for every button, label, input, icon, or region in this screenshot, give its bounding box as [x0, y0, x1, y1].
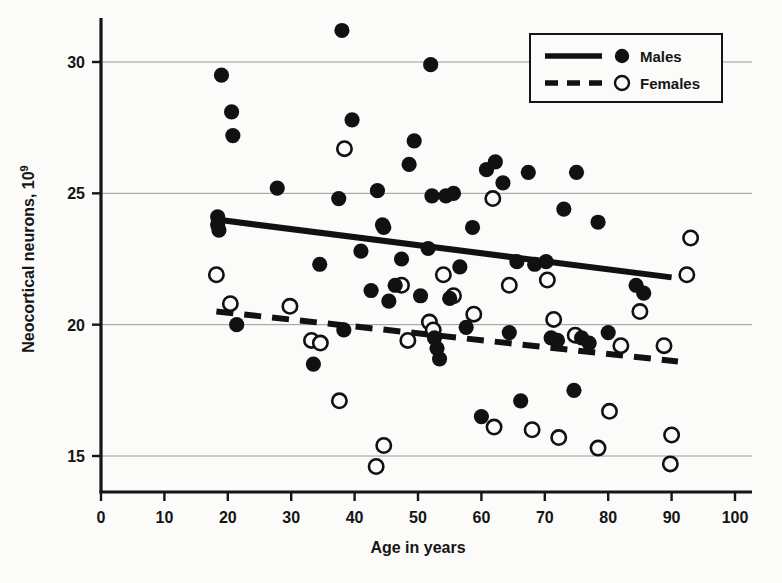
x-tick-label-80: 80 [599, 509, 617, 526]
x-tick-label-20: 20 [219, 509, 237, 526]
legend-label-males: Males [640, 48, 682, 65]
data-point-female [525, 423, 539, 437]
legend-marker-females [615, 76, 629, 90]
data-point-male [402, 157, 417, 172]
legend-label-females: Females [640, 75, 700, 92]
y-axis-title-superscript: 9 [18, 165, 30, 171]
data-point-male [495, 175, 510, 190]
data-point-male [306, 356, 321, 371]
data-point-male [225, 128, 240, 143]
data-point-male [224, 104, 239, 119]
data-point-female [680, 268, 694, 282]
data-point-female [633, 304, 647, 318]
data-point-female [377, 438, 391, 452]
data-point-female [683, 231, 697, 245]
data-point-male [331, 191, 346, 206]
data-point-female [602, 404, 616, 418]
data-point-male [421, 241, 436, 256]
data-point-male [407, 133, 422, 148]
x-tick-label-90: 90 [663, 509, 681, 526]
data-point-female [657, 338, 671, 352]
y-tick-label-30: 30 [67, 54, 85, 71]
data-point-male [474, 409, 489, 424]
data-point-female [540, 273, 554, 287]
data-point-male [344, 112, 359, 127]
data-point-male [432, 351, 447, 366]
data-point-female [436, 268, 450, 282]
data-point-male [424, 188, 439, 203]
data-point-male [601, 325, 616, 340]
data-point-female [591, 441, 605, 455]
data-point-female [283, 299, 297, 313]
data-point-male [370, 183, 385, 198]
data-point-male [521, 165, 536, 180]
data-point-male [446, 186, 461, 201]
data-point-male [442, 291, 457, 306]
x-tick-label-50: 50 [409, 509, 427, 526]
data-point-male [509, 254, 524, 269]
data-point-male [465, 220, 480, 235]
data-point-male [636, 286, 651, 301]
x-tick-label-40: 40 [346, 509, 364, 526]
data-point-female [467, 307, 481, 321]
data-point-male [459, 320, 474, 335]
data-point-male [413, 288, 428, 303]
data-point-female [546, 312, 560, 326]
data-point-female [486, 191, 500, 205]
x-tick-label-10: 10 [156, 509, 174, 526]
y-axis-ticks: 15202530 [67, 54, 101, 465]
data-point-female [209, 268, 223, 282]
data-point-male [353, 244, 368, 259]
x-axis-title: Age in years [370, 539, 465, 556]
data-point-male [452, 259, 467, 274]
x-tick-label-100: 100 [722, 509, 749, 526]
y-tick-label-25: 25 [67, 185, 85, 202]
data-point-male [513, 393, 528, 408]
data-point-male [550, 333, 565, 348]
data-point-male [590, 215, 605, 230]
data-point-female [663, 457, 677, 471]
data-point-male [502, 325, 517, 340]
data-point-male [336, 322, 351, 337]
x-tick-label-60: 60 [473, 509, 491, 526]
data-point-female [401, 333, 415, 347]
data-point-female [369, 459, 383, 473]
scatter-plot: 0102030405060708090100 15202530 MalesFem… [0, 0, 782, 583]
data-point-male [423, 57, 438, 72]
data-point-female [502, 278, 516, 292]
data-point-male [229, 317, 244, 332]
x-axis-ticks: 0102030405060708090100 [97, 492, 749, 526]
data-point-female [552, 430, 566, 444]
data-point-female [487, 420, 501, 434]
x-tick-label-30: 30 [282, 509, 300, 526]
gridlines [101, 62, 752, 456]
data-point-male [488, 154, 503, 169]
y-tick-label-20: 20 [67, 317, 85, 334]
x-tick-label-0: 0 [97, 509, 106, 526]
chart-figure: 0102030405060708090100 15202530 MalesFem… [0, 0, 782, 583]
data-point-male [381, 293, 396, 308]
data-point-male [211, 223, 226, 238]
data-point-male [376, 220, 391, 235]
legend-marker-males [615, 49, 629, 63]
x-tick-label-70: 70 [536, 509, 554, 526]
data-point-female [664, 428, 678, 442]
y-tick-label-15: 15 [67, 448, 85, 465]
y-axis-title: Neocortical neurons, 109 [18, 165, 37, 353]
data-point-male [270, 180, 285, 195]
data-point-male [538, 254, 553, 269]
data-point-female [332, 394, 346, 408]
data-point-male [582, 335, 597, 350]
data-point-male [566, 383, 581, 398]
data-point-female [337, 141, 351, 155]
data-point-male [569, 165, 584, 180]
data-point-male [312, 257, 327, 272]
data-point-male [556, 201, 571, 216]
data-point-female [223, 296, 237, 310]
data-point-female [313, 336, 327, 350]
data-point-male [214, 68, 229, 83]
chart-legend: MalesFemales [530, 34, 722, 102]
data-point-male [394, 251, 409, 266]
data-point-male [388, 278, 403, 293]
data-point-male [334, 23, 349, 38]
